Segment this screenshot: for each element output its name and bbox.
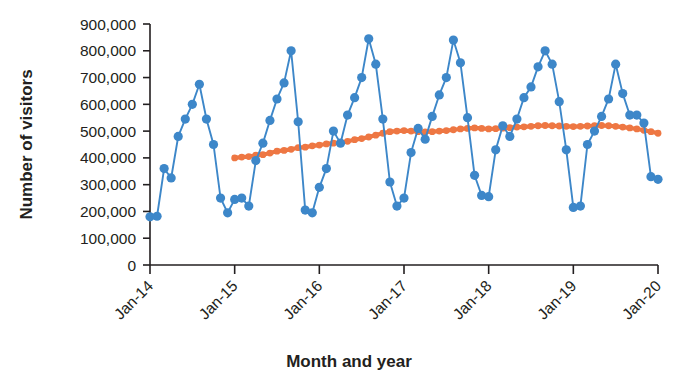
x-axis-tick-marks xyxy=(150,265,658,274)
data-point-marker xyxy=(378,114,387,123)
data-point-marker xyxy=(399,193,408,202)
data-point-marker xyxy=(343,110,352,119)
data-point-marker xyxy=(605,122,612,129)
x-axis-tick-label: Jan-16 xyxy=(280,277,326,323)
x-axis-tick-label: Jan-19 xyxy=(534,277,580,323)
data-point-marker xyxy=(533,62,542,71)
y-axis-tick-label: 0 xyxy=(127,257,136,274)
data-point-marker xyxy=(216,193,225,202)
x-axis-tick-label: Jan-17 xyxy=(365,277,411,323)
data-point-marker xyxy=(244,201,253,210)
data-point-marker xyxy=(174,132,183,141)
data-point-marker xyxy=(491,145,500,154)
data-point-marker xyxy=(470,171,479,180)
data-point-marker xyxy=(202,114,211,123)
data-point-marker xyxy=(372,132,379,139)
data-point-marker xyxy=(181,114,190,123)
data-point-marker xyxy=(237,193,246,202)
data-point-marker xyxy=(322,164,331,173)
data-point-marker xyxy=(401,127,408,134)
y-axis-tick-label: 700,000 xyxy=(80,69,136,86)
data-point-marker xyxy=(365,134,372,141)
data-point-marker xyxy=(316,142,323,149)
data-point-marker xyxy=(223,208,232,217)
data-point-marker xyxy=(302,144,309,151)
data-point-marker xyxy=(505,132,514,141)
visitors-line-chart: 0100,000200,000300,000400,000500,000600,… xyxy=(0,0,682,382)
data-point-marker xyxy=(512,114,521,123)
data-point-marker xyxy=(626,125,633,132)
data-point-marker xyxy=(188,100,197,109)
data-point-marker xyxy=(294,117,303,126)
data-point-marker xyxy=(619,124,626,131)
y-axis-tick-label: 800,000 xyxy=(80,42,136,59)
data-point-marker xyxy=(385,177,394,186)
data-point-marker xyxy=(160,164,169,173)
data-point-marker xyxy=(492,125,499,132)
data-point-marker xyxy=(258,139,267,148)
data-point-marker xyxy=(281,147,288,154)
data-point-marker xyxy=(429,128,436,135)
data-point-marker xyxy=(408,128,415,135)
data-point-marker xyxy=(421,135,430,144)
data-point-marker xyxy=(655,130,662,137)
y-axis-tick-label: 400,000 xyxy=(80,149,136,166)
data-point-marker xyxy=(414,124,423,133)
data-point-marker xyxy=(265,116,274,125)
data-point-marker xyxy=(245,153,252,160)
data-point-marker xyxy=(478,125,485,132)
data-point-marker xyxy=(498,121,507,130)
data-point-marker xyxy=(590,127,599,136)
y-axis-tick-label: 200,000 xyxy=(80,203,136,220)
data-point-marker xyxy=(611,60,620,69)
data-point-marker xyxy=(394,128,401,135)
data-point-marker xyxy=(633,126,640,133)
data-point-marker xyxy=(309,142,316,149)
data-point-marker xyxy=(435,90,444,99)
data-point-marker xyxy=(542,122,549,129)
data-point-marker xyxy=(535,122,542,129)
data-point-marker xyxy=(521,123,528,130)
data-point-marker xyxy=(528,123,535,130)
data-point-marker xyxy=(519,93,528,102)
data-point-marker xyxy=(450,126,457,133)
data-point-marker xyxy=(436,128,443,135)
data-point-marker xyxy=(442,73,451,82)
data-point-marker xyxy=(604,94,613,103)
data-point-marker xyxy=(231,154,238,161)
data-point-marker xyxy=(251,156,260,165)
y-axis-tick-marks xyxy=(143,24,150,265)
x-axis-tick-label: Jan-18 xyxy=(449,277,495,323)
data-point-marker xyxy=(562,145,571,154)
data-point-marker xyxy=(406,148,415,157)
y-axis-tick-label: 600,000 xyxy=(80,96,136,113)
data-point-marker xyxy=(392,201,401,210)
y-axis-tick-label: 300,000 xyxy=(80,176,136,193)
data-point-marker xyxy=(288,146,295,153)
data-point-marker xyxy=(323,141,330,148)
data-point-marker xyxy=(618,89,627,98)
y-axis-tick-labels: 0100,000200,000300,000400,000500,000600,… xyxy=(80,16,136,274)
data-point-marker xyxy=(526,82,535,91)
data-point-marker xyxy=(238,154,245,161)
data-point-marker xyxy=(358,135,365,142)
data-point-marker xyxy=(267,150,274,157)
data-point-marker xyxy=(485,126,492,133)
data-point-marker xyxy=(577,123,584,130)
x-axis-tick-label: Jan-14 xyxy=(111,277,157,323)
data-point-marker xyxy=(648,128,655,135)
y-axis-tick-label: 100,000 xyxy=(80,230,136,247)
data-point-marker xyxy=(351,136,358,143)
data-point-marker xyxy=(336,139,345,148)
data-point-marker xyxy=(287,46,296,55)
y-axis-tick-label: 500,000 xyxy=(80,123,136,140)
y-axis-tick-label: 900,000 xyxy=(80,16,136,33)
data-point-marker xyxy=(371,60,380,69)
data-point-marker xyxy=(463,113,472,122)
x-axis-tick-labels: Jan-14Jan-15Jan-16Jan-17Jan-18Jan-19Jan-… xyxy=(111,277,665,323)
x-axis-title: Month and year xyxy=(286,352,412,371)
data-point-marker xyxy=(315,183,324,192)
data-point-marker xyxy=(456,58,465,67)
x-axis-tick-label: Jan-15 xyxy=(195,277,241,323)
chart-canvas: 0100,000200,000300,000400,000500,000600,… xyxy=(0,0,682,382)
